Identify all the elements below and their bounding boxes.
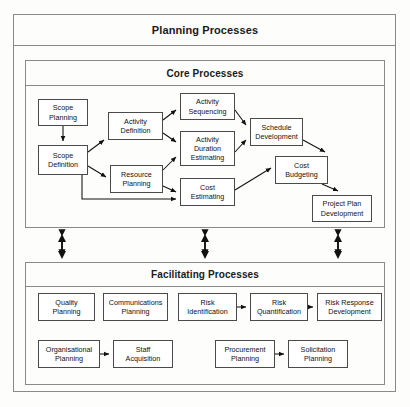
process-node-label: Communications <box>109 298 163 307</box>
process-node-label: Definition <box>48 160 78 169</box>
process-node-cost-budgeting[interactable]: CostBudgeting <box>275 156 328 184</box>
process-node-label: Solicitation <box>301 345 336 354</box>
facilitating-processes-title: Facilitating Processes <box>25 269 385 280</box>
process-node-staff-acquisition[interactable]: StaffAcquisition <box>113 340 173 368</box>
process-node-label: Sequencing <box>189 107 227 116</box>
process-node-label: Cost <box>285 161 317 170</box>
process-node-label: Definition <box>121 126 151 135</box>
planning-processes-title: Planning Processes <box>0 24 410 36</box>
process-node-label: Activity <box>191 135 225 144</box>
process-node-label: Risk <box>257 298 301 307</box>
process-node-scope-planning[interactable]: ScopePlanning <box>38 99 88 126</box>
process-node-label: Estimating <box>191 153 225 162</box>
process-node-label: Activity <box>189 97 227 106</box>
process-node-communications-planning[interactable]: CommunicationsPlanning <box>103 293 168 321</box>
process-node-schedule-development[interactable]: ScheduleDevelopment <box>250 118 303 146</box>
process-node-label: Scope <box>48 151 78 160</box>
process-node-activity-definition[interactable]: ActivityDefinition <box>108 112 163 140</box>
process-node-label: Planning <box>46 354 92 363</box>
core-processes-title: Core Processes <box>25 68 385 79</box>
process-node-label: Development <box>255 132 297 141</box>
process-node-label: Scope <box>49 103 77 112</box>
process-node-label: Staff <box>126 345 161 354</box>
facilitating-title-divider <box>25 286 385 287</box>
process-node-label: Risk Response <box>325 298 373 307</box>
process-node-project-plan-development[interactable]: Project PlanDevelopment <box>312 195 372 222</box>
process-node-resource-planning[interactable]: ResourcePlanning <box>110 165 163 193</box>
process-node-activity-sequencing[interactable]: ActivitySequencing <box>180 93 235 120</box>
process-node-label: Procurement <box>224 345 265 354</box>
diagram-canvas: Planning Processes Core Processes Facili… <box>0 0 410 407</box>
process-node-label: Planning <box>53 307 81 316</box>
process-node-label: Organisational <box>46 345 92 354</box>
planning-title-divider <box>13 45 396 46</box>
process-node-label: Schedule <box>255 123 297 132</box>
process-node-risk-identification[interactable]: RiskIdentification <box>178 293 237 321</box>
process-node-label: Planning <box>49 113 77 122</box>
process-node-risk-quantification[interactable]: RiskQuantification <box>250 293 308 321</box>
process-node-label: Project Plan <box>321 199 363 208</box>
process-node-risk-response-development[interactable]: Risk ResponseDevelopment <box>317 293 382 321</box>
process-node-label: Acquisition <box>126 354 161 363</box>
process-node-organisational-planning[interactable]: OrganisationalPlanning <box>38 340 100 368</box>
process-node-label: Development <box>325 307 373 316</box>
process-node-solicitation-planning[interactable]: SolicitationPlanning <box>288 340 348 368</box>
process-node-label: Estimating <box>191 192 225 201</box>
process-node-cost-estimating[interactable]: CostEstimating <box>180 178 235 206</box>
process-node-procurement-planning[interactable]: ProcurementPlanning <box>215 340 275 368</box>
process-node-quality-planning[interactable]: QualityPlanning <box>38 293 95 321</box>
process-node-label: Quantification <box>257 307 301 316</box>
process-node-label: Resource <box>121 170 152 179</box>
process-node-label: Cost <box>191 183 225 192</box>
process-node-label: Budgeting <box>285 170 317 179</box>
process-node-label: Planning <box>121 179 152 188</box>
process-node-label: Risk <box>187 298 227 307</box>
process-node-label: Planning <box>109 307 163 316</box>
process-node-label: Development <box>321 209 363 218</box>
process-node-label: Duration <box>191 144 225 153</box>
process-node-label: Activity <box>121 117 151 126</box>
process-node-label: Identification <box>187 307 227 316</box>
process-node-scope-definition[interactable]: ScopeDefinition <box>38 145 88 175</box>
process-node-label: Quality <box>53 298 81 307</box>
process-node-activity-duration-estimating[interactable]: ActivityDurationEstimating <box>180 131 235 166</box>
core-title-divider <box>25 85 385 86</box>
process-node-label: Planning <box>301 354 336 363</box>
process-node-label: Planning <box>224 354 265 363</box>
